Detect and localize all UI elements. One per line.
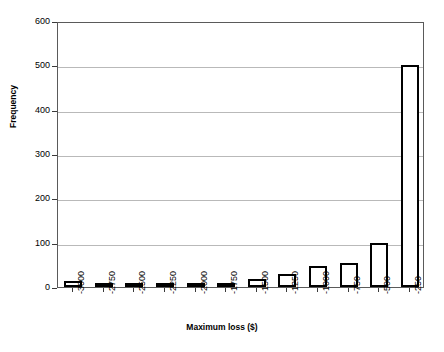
y-axis-title: Frequency (8, 85, 18, 128)
x-tick-mark--750 (348, 288, 349, 292)
y-tick-label-400: 400 (20, 105, 50, 115)
x-tick-mark--1500 (256, 288, 257, 292)
y-tick-label-0: 0 (20, 282, 50, 292)
gridline-400 (58, 112, 423, 113)
y-tick-label-500: 500 (20, 60, 50, 70)
x-tick-label--1250: -1250 (290, 271, 300, 294)
x-axis-title: Maximum loss ($) (0, 322, 444, 332)
x-tick-label--2250: -2250 (168, 271, 178, 294)
x-tick-mark--2750 (103, 288, 104, 292)
y-tick-mark-0 (52, 288, 57, 289)
x-tick-label--2750: -2750 (107, 271, 117, 294)
bar (401, 65, 419, 287)
x-tick-mark--1000 (317, 288, 318, 292)
y-tick-label-100: 100 (20, 238, 50, 248)
histogram-chart: Frequency 0100200300400500600 -3000-2750… (0, 0, 444, 352)
x-tick-mark--500 (378, 288, 379, 292)
x-tick-label--1500: -1500 (260, 271, 270, 294)
y-tick-label-200: 200 (20, 193, 50, 203)
plot-area (57, 22, 424, 288)
x-tick-mark--2500 (133, 288, 134, 292)
x-tick-mark--2000 (195, 288, 196, 292)
x-tick-label--750: -750 (352, 276, 362, 294)
x-tick-label--2000: -2000 (199, 271, 209, 294)
x-tick-label--2500: -2500 (137, 271, 147, 294)
x-tick-mark--250 (409, 288, 410, 292)
gridline-100 (58, 245, 423, 246)
y-tick-label-300: 300 (20, 149, 50, 159)
x-tick-label--3000: -3000 (76, 271, 86, 294)
gridline-200 (58, 200, 423, 201)
x-tick-mark--3000 (72, 288, 73, 292)
x-tick-label--1750: -1750 (229, 271, 239, 294)
x-tick-label--500: -500 (382, 276, 392, 294)
x-tick-label--1000: -1000 (321, 271, 331, 294)
gridline-500 (58, 67, 423, 68)
x-tick-mark--2250 (164, 288, 165, 292)
gridline-300 (58, 156, 423, 157)
y-tick-label-600: 600 (20, 16, 50, 26)
x-tick-label--250: -250 (413, 276, 423, 294)
x-tick-mark--1750 (225, 288, 226, 292)
x-tick-mark--1250 (286, 288, 287, 292)
